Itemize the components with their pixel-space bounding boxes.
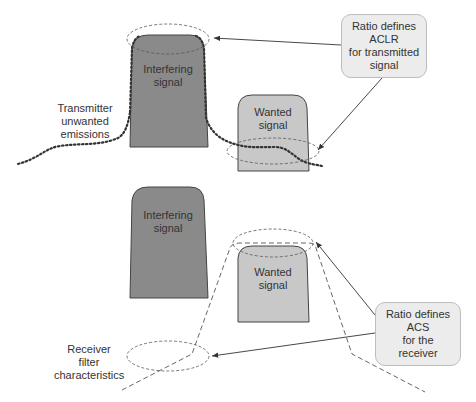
- label-line: signal: [248, 119, 298, 132]
- wanted-label-top: Wanted signal: [248, 106, 298, 132]
- receiver-label: Receiver filter characteristics: [54, 343, 124, 382]
- label-line: Wanted: [248, 266, 298, 279]
- label-line: unwanted: [52, 115, 118, 128]
- label-line: filter: [54, 356, 124, 369]
- callout-line: ACLR: [342, 33, 426, 46]
- aclr-callout: Ratio defines ACLR for transmitted signa…: [341, 14, 427, 78]
- callout-line: ACS: [376, 321, 460, 334]
- label-line: Interfering: [140, 63, 196, 76]
- label-line: signal: [140, 222, 196, 235]
- callout-line: receiver: [376, 347, 460, 360]
- interfering-label-top: Interfering signal: [140, 63, 196, 89]
- label-line: signal: [248, 279, 298, 292]
- label-line: emissions: [52, 128, 118, 141]
- interfering-signal-bottom: [130, 187, 208, 298]
- emissions-label: Transmitter unwanted emissions: [52, 102, 118, 141]
- acs-callout: Ratio defines ACS for the receiver: [375, 302, 461, 366]
- label-line: signal: [140, 76, 196, 89]
- label-line: Transmitter: [52, 102, 118, 115]
- interfering-label-bottom: Interfering signal: [140, 209, 196, 235]
- label-line: characteristics: [54, 369, 124, 382]
- wanted-label-bottom: Wanted signal: [248, 266, 298, 292]
- callout-line: Ratio defines: [376, 308, 460, 321]
- callout-line: signal: [342, 59, 426, 72]
- callout-line: for the: [376, 334, 460, 347]
- aclr-acs-diagram: Interfering signal Wanted signal Transmi…: [0, 0, 476, 402]
- label-line: Receiver: [54, 343, 124, 356]
- callout-line: for transmitted: [342, 46, 426, 59]
- label-line: Interfering: [140, 209, 196, 222]
- callout-line: Ratio defines: [342, 20, 426, 33]
- interfering-signal-top: [130, 35, 208, 147]
- label-line: Wanted: [248, 106, 298, 119]
